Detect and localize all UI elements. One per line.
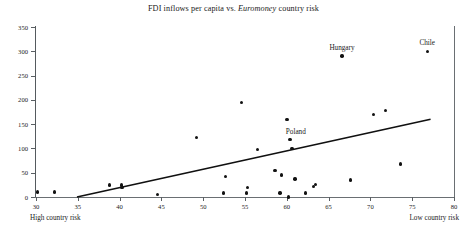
x-tick-mark (161, 197, 162, 201)
y-tick-mark (31, 124, 35, 125)
data-point (273, 169, 276, 172)
y-tick-mark (31, 173, 35, 174)
x-axis-right-caption: Low country risk (409, 214, 459, 223)
data-point (426, 50, 429, 53)
data-point (288, 138, 291, 141)
data-point (304, 191, 307, 194)
data-point (222, 191, 225, 194)
x-tick-label: 40 (108, 203, 132, 211)
data-point (293, 177, 296, 180)
x-tick-label: 30 (24, 203, 48, 211)
data-point (120, 186, 123, 189)
chart-title-part-2: country risk (276, 4, 319, 13)
data-point (224, 175, 227, 178)
x-tick-label: 45 (149, 203, 173, 211)
x-tick-mark (454, 197, 455, 201)
x-tick-label: 55 (233, 203, 257, 211)
x-tick-mark (78, 197, 79, 201)
x-tick-label: 80 (442, 203, 466, 211)
y-tick-mark (31, 197, 35, 198)
x-tick-mark (36, 197, 37, 201)
data-point (340, 54, 343, 57)
data-point (246, 186, 249, 189)
x-tick-label: 60 (275, 203, 299, 211)
x-tick-label: 35 (66, 203, 90, 211)
y-tick-label: 200 (0, 96, 28, 103)
chart-title-italic-euromoney: Euromoney (238, 4, 276, 13)
data-point (256, 148, 259, 151)
chart-title: FDI inflows per capita vs. Euromoney cou… (0, 4, 467, 14)
x-tick-mark (245, 197, 246, 201)
y-axis-line (35, 26, 36, 198)
point-label-poland: Poland (286, 128, 306, 136)
x-tick-mark (412, 197, 413, 201)
y-tick-label: 50 (0, 169, 28, 176)
right-axis-line (454, 26, 455, 198)
data-point (108, 183, 111, 186)
data-point (399, 162, 402, 165)
x-tick-mark (370, 197, 371, 201)
data-point (349, 178, 352, 181)
x-axis-left-caption: High country risk (30, 214, 81, 223)
data-point (278, 191, 281, 194)
x-tick-mark (203, 197, 204, 201)
data-point (53, 190, 56, 193)
chart-root: FDI inflows per capita vs. Euromoney cou… (0, 0, 467, 242)
y-tick-label: 250 (0, 72, 28, 79)
data-point (245, 191, 248, 194)
data-point (240, 101, 243, 104)
data-point (285, 118, 288, 121)
y-tick-mark (31, 51, 35, 52)
y-tick-mark (31, 148, 35, 149)
y-tick-label: 0 (0, 194, 28, 201)
point-label-hungary: Hungary (329, 44, 354, 52)
chart-title-part-1: FDI inflows per capita vs. (148, 4, 238, 13)
x-tick-mark (120, 197, 121, 201)
x-tick-mark (329, 197, 330, 201)
y-tick-mark (31, 100, 35, 101)
data-point (280, 173, 283, 176)
y-tick-label: 300 (0, 48, 28, 55)
y-tick-label: 350 (0, 24, 28, 31)
data-point (314, 183, 317, 186)
data-point (384, 109, 387, 112)
point-label-chile: Chile (419, 39, 435, 47)
data-point (195, 136, 198, 139)
data-point (287, 195, 290, 198)
data-point (156, 193, 159, 196)
x-tick-label: 75 (400, 203, 424, 211)
y-tick-mark (31, 76, 35, 77)
data-point (372, 113, 375, 116)
y-tick-label: 150 (0, 121, 28, 128)
x-tick-label: 65 (317, 203, 341, 211)
data-point (290, 147, 293, 150)
y-tick-label: 100 (0, 145, 28, 152)
x-tick-label: 70 (358, 203, 382, 211)
x-tick-label: 50 (191, 203, 215, 211)
data-point (36, 190, 39, 193)
y-tick-mark (31, 27, 35, 28)
